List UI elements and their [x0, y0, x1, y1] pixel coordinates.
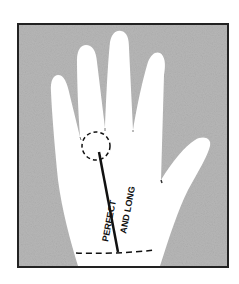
palm-diagram: PERFECT AND LONG	[0, 0, 239, 284]
